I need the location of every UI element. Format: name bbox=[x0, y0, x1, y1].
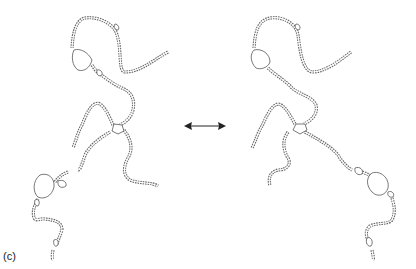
arrow-right-head-icon bbox=[218, 122, 226, 130]
double-arrow bbox=[184, 122, 226, 130]
figure-canvas bbox=[0, 0, 416, 269]
left-rna-structure bbox=[33, 18, 168, 260]
panel-label: (c) bbox=[3, 250, 16, 262]
arrow-left-head-icon bbox=[184, 122, 192, 130]
right-rna-structure bbox=[251, 18, 394, 260]
